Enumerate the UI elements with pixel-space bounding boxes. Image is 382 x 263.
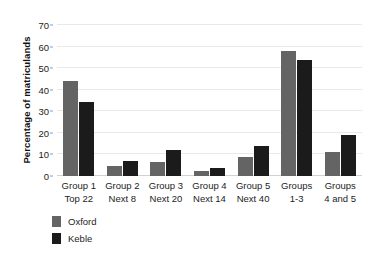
category-label-line2: 1-3 — [275, 193, 319, 206]
bar-keble — [341, 135, 356, 176]
y-axis-tick-label: 50 — [38, 63, 49, 74]
y-axis-tick-mark — [50, 154, 53, 155]
bar-chart: Percentage of matriculands 0102030405060… — [0, 0, 382, 263]
bar-oxford — [107, 166, 122, 176]
y-axis-tick-mark — [50, 89, 53, 90]
category-label-line2: Top 22 — [57, 193, 101, 206]
bar-keble — [123, 161, 138, 176]
y-axis-tick-label: 30 — [38, 106, 49, 117]
x-axis-category-label: Group 5Next 40 — [231, 180, 275, 205]
category-label-line1: Group 3 — [144, 180, 188, 193]
y-axis-tick-label: 0 — [44, 171, 49, 182]
y-axis-tick-label: 20 — [38, 127, 49, 138]
bar-group — [57, 25, 101, 176]
bar-keble — [79, 102, 94, 176]
y-axis-tick-mark — [50, 176, 53, 177]
category-label-line1: Group 4 — [188, 180, 232, 193]
bar-oxford — [150, 162, 165, 176]
category-label-line1: Group 2 — [101, 180, 145, 193]
x-axis-category-label: Group 4Next 14 — [188, 180, 232, 205]
bar-group — [144, 25, 188, 176]
legend-label: Keble — [68, 233, 92, 244]
bar-oxford — [63, 81, 78, 176]
bar-keble — [254, 146, 269, 176]
x-axis-category-labels: Group 1Top 22Group 2Next 8Group 3Next 20… — [57, 180, 362, 210]
y-axis-tick-labels: 010203040506070 — [25, 25, 53, 176]
category-label-line1: Groups — [318, 180, 362, 193]
bar-oxford — [325, 152, 340, 176]
category-label-line2: Next 8 — [101, 193, 145, 206]
x-axis-category-label: Groups4 and 5 — [318, 180, 362, 205]
y-axis-tick-mark — [50, 132, 53, 133]
category-label-line2: Next 40 — [231, 193, 275, 206]
x-axis-category-label: Group 1Top 22 — [57, 180, 101, 205]
y-axis-tick-label: 40 — [38, 84, 49, 95]
bar-group — [231, 25, 275, 176]
chart-legend: OxfordKeble — [52, 213, 97, 247]
plot-area — [57, 25, 362, 176]
category-label-line1: Group 5 — [231, 180, 275, 193]
x-axis-category-label: Group 3Next 20 — [144, 180, 188, 205]
bar-oxford — [238, 157, 253, 176]
bars-layer — [57, 25, 362, 176]
bar-keble — [210, 168, 225, 176]
y-axis-tick-mark — [50, 68, 53, 69]
bar-group — [101, 25, 145, 176]
legend-swatch-icon — [52, 216, 61, 227]
category-label-line1: Groups — [275, 180, 319, 193]
category-label-line2: 4 and 5 — [318, 193, 362, 206]
y-axis-tick-label: 10 — [38, 149, 49, 160]
y-axis-tick-mark — [50, 46, 53, 47]
bar-keble — [297, 60, 312, 176]
x-axis-category-label: Groups1-3 — [275, 180, 319, 205]
category-label-line2: Next 20 — [144, 193, 188, 206]
y-axis-tick-label: 60 — [38, 41, 49, 52]
category-label-line2: Next 14 — [188, 193, 232, 206]
bar-oxford — [281, 51, 296, 176]
legend-item: Oxford — [52, 213, 97, 230]
y-axis-tick-mark — [50, 111, 53, 112]
legend-item: Keble — [52, 230, 97, 247]
y-axis-tick-label: 70 — [38, 20, 49, 31]
x-axis-category-label: Group 2Next 8 — [101, 180, 145, 205]
legend-swatch-icon — [52, 233, 61, 244]
legend-label: Oxford — [68, 216, 97, 227]
bar-group — [318, 25, 362, 176]
bar-group — [188, 25, 232, 176]
bar-keble — [166, 150, 181, 176]
category-label-line1: Group 1 — [57, 180, 101, 193]
bar-group — [275, 25, 319, 176]
bar-oxford — [194, 171, 209, 176]
y-axis-tick-mark — [50, 25, 53, 26]
